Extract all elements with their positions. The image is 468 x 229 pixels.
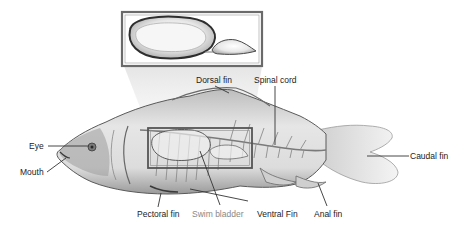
label-caudal-fin: Caudal fin (410, 151, 448, 161)
fish-anatomy-diagram (0, 0, 468, 229)
label-spinal-cord: Spinal cord (254, 75, 297, 85)
label-ventral-fin: Ventral Fin (257, 209, 298, 219)
label-pectoral-fin: Pectoral fin (137, 209, 180, 219)
label-swim-bladder: Swim bladder (192, 209, 244, 219)
label-eye: Eye (29, 141, 44, 151)
leader-pectoral-fin (158, 193, 161, 207)
label-anal-fin: Anal fin (314, 209, 342, 219)
label-dorsal-fin: Dorsal fin (196, 75, 232, 85)
leader-anal-fin (318, 183, 327, 206)
swim-bladder-inset (122, 12, 262, 66)
leader-mouth (47, 158, 66, 172)
leader-ventral-fin (190, 189, 248, 201)
fish-body (57, 88, 398, 194)
label-mouth: Mouth (20, 167, 44, 177)
caudal-fin-shape (318, 125, 398, 183)
